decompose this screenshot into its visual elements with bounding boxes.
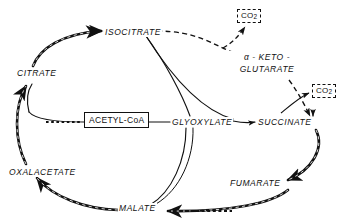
arrow-fumarate-to-malate	[168, 190, 288, 211]
co2-top-subscript: 2	[253, 13, 257, 20]
node-co2-right[interactable]: CO2	[312, 84, 336, 98]
node-isocitrate[interactable]: ISOCITRATE	[104, 27, 162, 37]
arrow-oxalacetate-to-acetylcoa	[29, 112, 84, 122]
pathway-arrows	[0, 0, 348, 224]
arrow-isocitrate-to-glyoxylate	[146, 36, 190, 116]
node-fumarate[interactable]: FUMARATE	[229, 178, 282, 188]
node-alpha-ketoglutarate-line1: α - KETO -	[229, 51, 305, 63]
arrow-isocitrate-to-succinate	[146, 36, 255, 123]
co2-right-text: CO	[316, 86, 328, 95]
arrow-succinate-to-fumarate	[288, 130, 319, 180]
arrow-acetylcoa-to-citrate	[28, 84, 32, 112]
arrow-isocitrate-to-alpha-ketoglutarate	[157, 31, 232, 52]
arrow-oxalacetate-to-citrate	[17, 86, 26, 164]
co2-top-text: CO	[241, 11, 253, 20]
node-succinate[interactable]: SUCCINATE	[257, 117, 312, 127]
node-co2-top[interactable]: CO2	[237, 9, 261, 23]
node-glyoxylate[interactable]: GLYOXYLATE	[171, 117, 233, 127]
co2-right-subscript: 2	[328, 88, 332, 95]
arrow-to-co2-right	[281, 93, 309, 113]
diagram-canvas: ISOCITRATE CITRATE α - KETO - GLUTARATE …	[0, 0, 348, 224]
node-oxalacetate[interactable]: OXALACETATE	[8, 167, 77, 177]
node-alpha-ketoglutarate-line2: GLUTARATE	[229, 63, 305, 75]
node-acetyl-coa[interactable]: ACETYL-CoA	[84, 112, 149, 128]
arrow-citrate-to-isocitrate	[33, 31, 100, 66]
node-citrate[interactable]: CITRATE	[16, 68, 58, 78]
node-malate[interactable]: MALATE	[118, 203, 157, 213]
node-alpha-ketoglutarate[interactable]: α - KETO - GLUTARATE	[228, 51, 306, 75]
arrow-glyoxylate-to-malate	[150, 128, 186, 205]
arrow-malate-to-oxalacetate	[37, 178, 118, 210]
arrow-to-co2-top	[223, 27, 245, 48]
arrow-glyoxylate-to-malate-secondary	[156, 128, 193, 204]
